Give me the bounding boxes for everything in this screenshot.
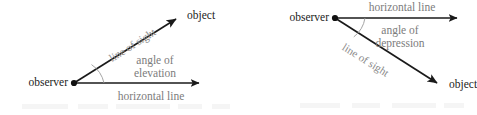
horizontal-line-label: horizontal line — [118, 90, 185, 102]
scan-artifact — [78, 104, 108, 109]
observer-vertex-dot — [332, 15, 338, 21]
trigonometry-angle-figure: observer object line of sight angle of e… — [0, 0, 477, 115]
observer-vertex-dot — [71, 80, 77, 86]
angle-label-line1: angle of — [381, 24, 419, 37]
object-label: object — [187, 9, 216, 22]
scan-artifact — [300, 103, 340, 108]
diagram-angle-of-depression: observer object horizontal line angle of… — [289, 1, 477, 91]
scan-artifact — [22, 104, 68, 109]
angle-label-line2: elevation — [134, 67, 176, 79]
scan-artifact — [178, 104, 202, 109]
observer-label: observer — [28, 76, 68, 88]
angle-label-line1: angle of — [136, 54, 174, 67]
scan-artifact — [116, 104, 170, 109]
horizontal-line-label: horizontal line — [369, 1, 436, 13]
observer-label: observer — [289, 11, 329, 23]
angle-label-line2: depression — [375, 37, 424, 50]
diagram-angle-of-elevation: observer object line of sight angle of e… — [28, 9, 215, 102]
diagram-canvas: observer object line of sight angle of e… — [0, 0, 477, 115]
object-label: object — [449, 78, 477, 91]
scan-artifact — [352, 103, 380, 108]
scan-artifact — [444, 103, 464, 108]
scan-artifact — [392, 103, 436, 108]
scan-artifact — [212, 104, 230, 109]
